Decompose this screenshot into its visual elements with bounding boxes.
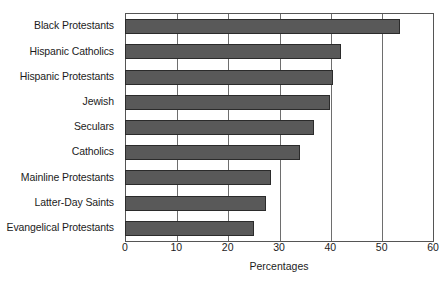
bar [125,196,266,211]
category-label-row: Catholics [0,139,119,164]
bar-row [126,39,433,64]
category-label-row: Black Protestants [0,13,119,38]
category-label: Jewish [83,96,115,107]
x-tick-label: 20 [222,242,234,253]
category-label-row: Jewish [0,89,119,114]
category-label-row: Seculars [0,114,119,139]
bar [125,70,333,85]
category-label: Seculars [74,121,114,132]
category-label-row: Mainline Protestants [0,164,119,189]
bar-row [126,191,433,216]
x-axis-title: Percentages [125,261,433,272]
bar [125,120,314,135]
x-tick-label: 0 [122,242,128,253]
x-tick-label: 40 [324,242,336,253]
bar [125,221,254,236]
category-label-row: Evangelical Protestants [0,215,119,240]
bar [125,95,330,110]
bar-series [126,14,433,241]
x-tick-label: 30 [273,242,285,253]
bar-row [126,14,433,39]
bar [125,145,300,160]
category-label: Latter-Day Saints [35,197,114,208]
x-tick-label: 50 [376,242,388,253]
bar-row [126,216,433,241]
category-label: Evangelical Protestants [7,222,114,233]
category-label: Hispanic Protestants [20,71,114,82]
category-label-row: Latter-Day Saints [0,190,119,215]
category-axis: Black ProtestantsHispanic CatholicsHispa… [0,13,119,240]
plot-area [125,13,434,242]
x-tick-label: 10 [170,242,182,253]
category-label: Hispanic Catholics [29,46,114,57]
bar-row [126,115,433,140]
category-label: Black Protestants [34,20,114,31]
bar-chart: Black ProtestantsHispanic CatholicsHispa… [0,0,445,282]
bar-row [126,64,433,89]
x-axis-ticks: 0102030405060 [125,242,433,256]
category-label-row: Hispanic Catholics [0,38,119,63]
bar-row [126,140,433,165]
bar-row [126,165,433,190]
bar [125,44,341,59]
bar [125,19,400,34]
bar-row [126,90,433,115]
x-tick-label: 60 [427,242,439,253]
category-label: Mainline Protestants [21,172,114,183]
category-label-row: Hispanic Protestants [0,63,119,88]
bar [125,170,271,185]
category-label: Catholics [72,146,114,157]
